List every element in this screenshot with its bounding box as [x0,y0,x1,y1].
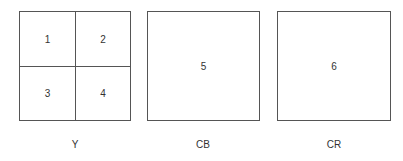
y-label: Y [45,139,105,150]
block-2: 2 [76,12,130,66]
block-3: 3 [20,67,75,120]
cb-label: CB [173,139,233,150]
cr-label: CR [304,139,364,150]
block-1: 1 [20,12,75,66]
block-5: 5 [148,12,259,120]
y-plane: 1 2 3 4 [19,11,131,121]
block-6: 6 [278,12,390,120]
block-4: 4 [76,67,130,120]
cb-plane: 5 [147,11,260,121]
cr-plane: 6 [277,11,391,121]
